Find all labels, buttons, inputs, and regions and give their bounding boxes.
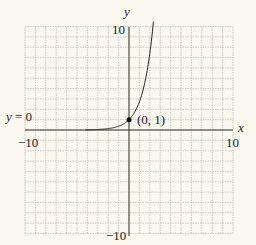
y-axis-label: y <box>124 5 130 18</box>
asymptote-label: y = 0 <box>6 110 32 123</box>
x-max-tick-label: 10 <box>226 136 239 149</box>
asymptote-eq: = 0 <box>12 109 32 124</box>
y-max-tick-label: 10 <box>112 23 125 36</box>
x-axis-label: x <box>238 121 244 134</box>
x-min-tick-label: −10 <box>18 136 38 149</box>
point-label: (0, 1) <box>137 113 165 126</box>
y-min-tick-label: −10 <box>106 229 126 242</box>
graph-plot <box>0 0 256 245</box>
point-marker <box>127 117 132 122</box>
